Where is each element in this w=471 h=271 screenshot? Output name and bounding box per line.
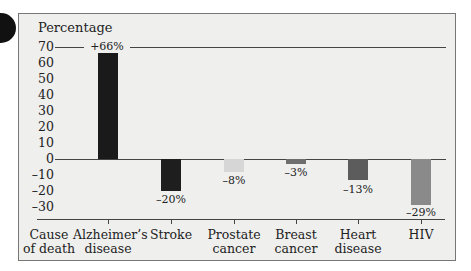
bar-prostate-cancer	[224, 159, 244, 172]
zero-line	[55, 159, 446, 160]
x-tick-breast-cancer	[296, 219, 297, 224]
category-label-line1: Breast	[261, 228, 331, 242]
value-label-alzheimers: +66%	[84, 40, 130, 53]
value-label-heart-disease: –13%	[333, 183, 383, 196]
value-label-prostate-cancer: –8%	[209, 174, 259, 187]
category-label-heart-disease: Heart disease	[323, 228, 393, 256]
bar-stroke	[161, 159, 181, 191]
category-label-line1: HIV	[386, 228, 456, 242]
x-tick-stroke	[171, 219, 172, 224]
y-tick-40: 40	[30, 88, 54, 102]
x-tick-prostate-cancer	[234, 219, 235, 224]
category-label-breast-cancer: Breast cancer	[261, 228, 331, 256]
y-tick-neg20: –20	[30, 184, 54, 198]
value-label-breast-cancer: –3%	[271, 166, 321, 179]
y-tick-60: 60	[30, 56, 54, 70]
x-tick-heart-disease	[358, 219, 359, 224]
reference-line-70-right	[128, 47, 446, 48]
category-label-line2: disease	[73, 242, 143, 256]
value-label-stroke: –20%	[146, 193, 196, 206]
bar-heart-disease	[348, 159, 368, 180]
x-tick-hiv	[421, 219, 422, 224]
category-label-line2: disease	[323, 242, 393, 256]
section-bullet-marker	[0, 13, 16, 43]
category-label-line2: cancer	[199, 242, 269, 256]
category-label-line1: Alzheimer’s	[73, 228, 143, 242]
value-label-hiv: –29%	[396, 206, 446, 219]
category-label-line1: Stroke	[136, 228, 206, 242]
y-axis-title: Percentage	[38, 20, 112, 35]
category-label-line1: Prostate	[199, 228, 269, 242]
category-label-alzheimers: Alzheimer’s disease	[73, 228, 143, 256]
y-tick-70: 70	[30, 40, 54, 54]
category-label-hiv: HIV	[386, 228, 456, 242]
y-tick-neg10: –10	[30, 168, 54, 182]
category-label-line1: Heart	[323, 228, 393, 242]
y-tick-10: 10	[30, 136, 54, 150]
y-tick-20: 20	[30, 120, 54, 134]
bar-breast-cancer	[286, 159, 306, 164]
x-axis-line	[37, 219, 445, 220]
bar-alzheimers	[98, 53, 118, 159]
category-label-line2: cancer	[261, 242, 331, 256]
bar-hiv	[411, 159, 431, 205]
y-tick-0: 0	[30, 152, 54, 166]
category-label-stroke: Stroke	[136, 228, 206, 242]
y-tick-50: 50	[30, 72, 54, 86]
y-tick-30: 30	[30, 104, 54, 118]
category-label-prostate-cancer: Prostate cancer	[199, 228, 269, 256]
y-tick-neg30: –30	[30, 200, 54, 214]
x-tick-alzheimers	[108, 219, 109, 224]
